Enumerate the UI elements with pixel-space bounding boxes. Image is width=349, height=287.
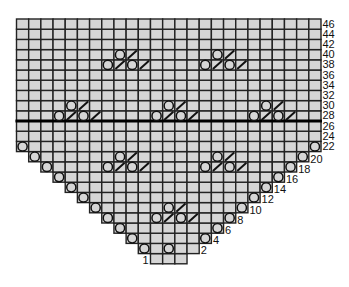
chart-cell <box>41 70 53 80</box>
chart-cell <box>309 50 321 60</box>
chart-cell <box>77 50 89 60</box>
chart-cell <box>199 70 211 80</box>
chart-cell <box>126 223 138 233</box>
chart-cell <box>187 39 199 49</box>
chart-cell <box>187 70 199 80</box>
chart-cell <box>236 182 248 192</box>
yarn-over-icon <box>274 111 283 120</box>
chart-cell <box>248 182 260 192</box>
row-label: 34 <box>323 80 335 91</box>
chart-cell <box>309 39 321 49</box>
chart-cell <box>199 39 211 49</box>
chart-cell <box>224 182 236 192</box>
row-label: 1 <box>142 255 148 266</box>
chart-cell <box>150 254 162 264</box>
chart-cell <box>65 152 77 162</box>
chart-cell <box>260 19 272 29</box>
chart-cell <box>102 131 114 141</box>
chart-cell <box>187 233 199 243</box>
chart-cell <box>272 60 284 70</box>
chart-cell <box>150 29 162 39</box>
chart-cell <box>53 39 65 49</box>
yarn-over-icon <box>67 183 76 192</box>
chart-cell <box>102 141 114 151</box>
chart-cell <box>163 80 175 90</box>
chart-cell <box>224 29 236 39</box>
chart-cell <box>114 182 126 192</box>
chart-cell <box>187 50 199 60</box>
chart-cell <box>309 90 321 100</box>
yarn-over-icon <box>237 203 246 212</box>
chart-cell <box>150 192 162 202</box>
row-label: 20 <box>310 154 322 165</box>
chart-cell <box>163 29 175 39</box>
chart-cell <box>309 29 321 39</box>
yarn-over-icon <box>262 183 271 192</box>
chart-cell <box>297 39 309 49</box>
chart-cell <box>297 90 309 100</box>
chart-cell <box>65 50 77 60</box>
row-label: 4 <box>213 235 219 246</box>
yarn-over-icon <box>103 213 112 222</box>
chart-cell <box>102 182 114 192</box>
chart-cell <box>114 19 126 29</box>
chart-cell <box>260 29 272 39</box>
chart-cell <box>199 131 211 141</box>
chart-cell <box>114 192 126 202</box>
chart-cell <box>29 80 41 90</box>
chart-cell <box>90 19 102 29</box>
row-label: 12 <box>262 194 274 205</box>
yarn-over-icon <box>128 162 137 171</box>
knitting-chart: 1246810121416182022242628303234363840424… <box>0 0 349 287</box>
chart-cell <box>284 80 296 90</box>
chart-cell <box>53 162 65 172</box>
chart-cell <box>138 213 150 223</box>
chart-cell <box>297 29 309 39</box>
chart-cell <box>284 141 296 151</box>
chart-cell <box>248 80 260 90</box>
chart-cell <box>126 172 138 182</box>
row-label: 6 <box>225 225 231 236</box>
row-label: 26 <box>323 121 335 132</box>
chart-cell <box>309 70 321 80</box>
chart-cell <box>175 182 187 192</box>
chart-cell <box>211 192 223 202</box>
chart-cell <box>224 90 236 100</box>
chart-cell <box>138 50 150 60</box>
chart-cell <box>248 60 260 70</box>
chart-cell <box>29 39 41 49</box>
chart-cell <box>199 101 211 111</box>
chart-cell <box>199 80 211 90</box>
chart-cell <box>41 80 53 90</box>
chart-cell <box>102 101 114 111</box>
chart-cell <box>29 141 41 151</box>
yarn-over-icon <box>55 173 64 182</box>
row-label: 28 <box>323 110 335 121</box>
chart-cell <box>199 172 211 182</box>
chart-cell <box>138 29 150 39</box>
yarn-over-icon <box>213 224 222 233</box>
chart-cell <box>77 162 89 172</box>
chart-cell <box>17 131 29 141</box>
chart-cell <box>163 254 175 264</box>
chart-cell <box>150 182 162 192</box>
yarn-over-icon <box>115 224 124 233</box>
chart-cell <box>102 80 114 90</box>
chart-cell <box>29 50 41 60</box>
chart-cell <box>211 172 223 182</box>
chart-cell <box>199 213 211 223</box>
chart-cell <box>77 131 89 141</box>
chart-cell <box>114 203 126 213</box>
chart-cell <box>163 131 175 141</box>
chart-cell <box>175 29 187 39</box>
yarn-over-icon <box>79 111 88 120</box>
chart-cell <box>126 29 138 39</box>
chart-cell <box>175 90 187 100</box>
chart-cell <box>102 19 114 29</box>
chart-cell <box>150 90 162 100</box>
chart-cell <box>114 213 126 223</box>
chart-cell <box>53 60 65 70</box>
chart-cell <box>175 141 187 151</box>
row-label: 30 <box>323 100 335 111</box>
chart-cell <box>309 80 321 90</box>
